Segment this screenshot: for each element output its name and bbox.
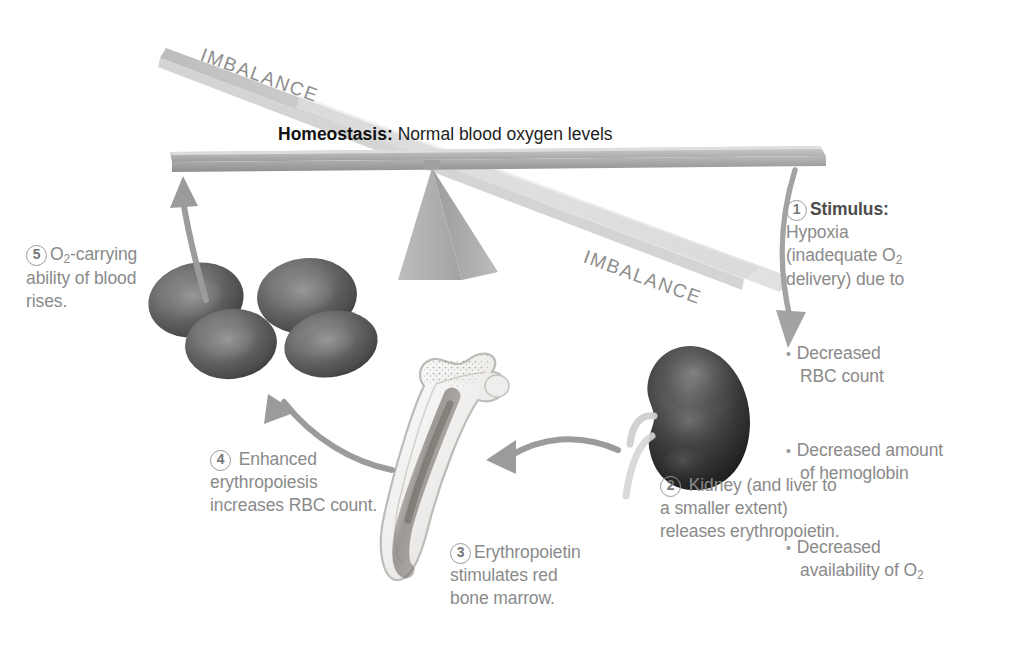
step-1-number: 1 bbox=[786, 200, 807, 221]
step-4-text: Enhanced erythropoiesis increases RBC co… bbox=[210, 449, 377, 515]
step-2-number: 2 bbox=[660, 476, 681, 497]
step-5-number: 5 bbox=[26, 245, 47, 266]
homeostasis-beam bbox=[170, 146, 826, 172]
step-5-text-a: O bbox=[50, 244, 64, 264]
step-2-text: Kidney (and liver to a smaller extent) r… bbox=[660, 475, 840, 541]
diagram-canvas: Homeostasis: Normal blood oxygen levels … bbox=[0, 0, 1024, 646]
step-1-line-1: Hypoxia bbox=[786, 222, 849, 242]
step-3-number: 3 bbox=[450, 543, 471, 564]
step-1-heading: Stimulus: bbox=[810, 199, 889, 219]
step-4-caption: 4 Enhanced erythropoiesis increases RBC … bbox=[210, 448, 450, 517]
step-1-bullet-3-text: Decreased availability of O bbox=[797, 537, 917, 580]
step-1-bullet-3: Decreased availability of O2 bbox=[786, 536, 1018, 583]
step-3-caption: 3Erythropoietin stimulates red bone marr… bbox=[450, 541, 680, 610]
step-1-line-3: delivery) due to bbox=[786, 269, 904, 289]
homeostasis-label: Homeostasis: Normal blood oxygen levels bbox=[278, 124, 613, 145]
step-5-caption: 5O2-carrying ability of blood rises. bbox=[26, 243, 206, 313]
step-1-subscript-1: 2 bbox=[896, 253, 903, 267]
homeostasis-bold-text: Homeostasis: bbox=[278, 124, 393, 144]
step-1-line-2: (inadequate O bbox=[786, 245, 896, 265]
step-1-bullet-1: Decreased RBC count bbox=[786, 342, 1018, 388]
step-2-caption: 2 Kidney (and liver to a smaller extent)… bbox=[660, 474, 950, 543]
step-4-number: 4 bbox=[210, 450, 231, 471]
homeostasis-normal-text: Normal blood oxygen levels bbox=[393, 124, 613, 144]
step-1-caption: 1Stimulus:Hypoxia(inadequate O2delivery)… bbox=[786, 198, 1018, 629]
arrow-kidney-to-bone bbox=[486, 439, 618, 474]
step-1-subscript-2: 2 bbox=[917, 568, 924, 582]
